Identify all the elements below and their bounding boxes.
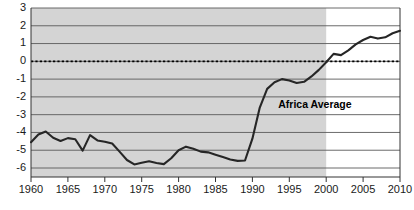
y-axis-label-4: -1: [16, 72, 26, 84]
x-axis-tick-labels: 1960196519701975198019851990199520002005…: [19, 183, 412, 195]
series-annotations: Africa Average: [278, 98, 352, 110]
africa-average-line-chart: 3210-1-2-3-4-5-6 19601965197019751980198…: [0, 0, 414, 210]
y-axis-label-8: -5: [16, 143, 26, 155]
x-axis-label-5: 1985: [203, 183, 227, 195]
annotation-africa-average: Africa Average: [278, 98, 352, 110]
y-axis-label-9: -6: [16, 161, 26, 173]
x-axis-label-2: 1970: [93, 183, 117, 195]
x-axis-label-10: 2010: [388, 183, 412, 195]
x-axis-label-0: 1960: [19, 183, 43, 195]
y-axis-label-7: -4: [16, 125, 26, 137]
x-axis-label-3: 1975: [129, 183, 153, 195]
x-axis-label-7: 1995: [277, 183, 301, 195]
x-axis-label-9: 2005: [351, 183, 375, 195]
x-axis-label-1: 1965: [56, 183, 80, 195]
x-axis-tick-marks: [31, 177, 400, 182]
x-axis-label-6: 1990: [240, 183, 264, 195]
y-axis-label-1: 2: [20, 19, 26, 31]
y-axis-label-0: 3: [20, 1, 26, 13]
chart-canvas: 3210-1-2-3-4-5-6 19601965197019751980198…: [0, 0, 414, 210]
y-axis-label-3: 0: [20, 54, 26, 66]
x-axis-label-8: 2000: [314, 183, 338, 195]
y-axis-tick-labels: 3210-1-2-3-4-5-6: [16, 1, 26, 173]
x-axis-label-4: 1980: [166, 183, 190, 195]
y-axis-label-6: -3: [16, 108, 26, 120]
y-axis-label-2: 1: [20, 36, 26, 48]
y-axis-label-5: -2: [16, 90, 26, 102]
